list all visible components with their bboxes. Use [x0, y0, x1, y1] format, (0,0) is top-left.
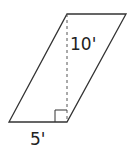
height-label: 10' [70, 34, 96, 54]
right-angle-marker [55, 110, 67, 122]
parallelogram-diagram: 10' 5' [0, 0, 132, 150]
base-label: 5' [30, 129, 46, 149]
